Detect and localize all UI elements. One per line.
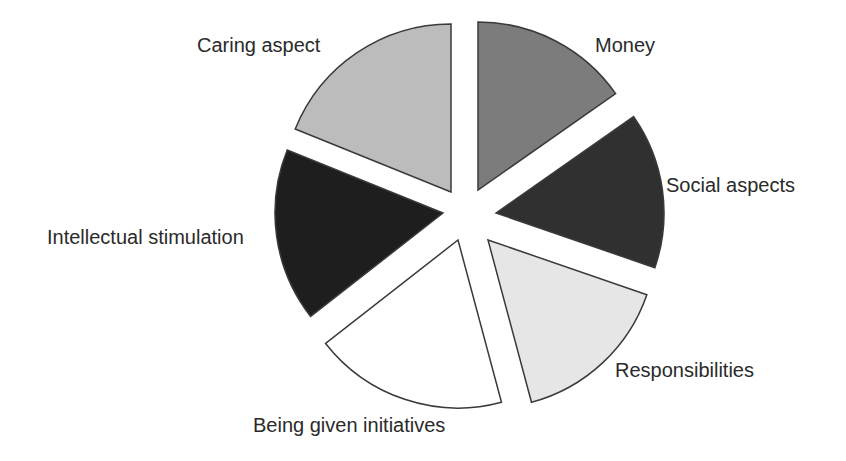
label-being-given-initiatives: Being given initiatives	[253, 415, 445, 435]
label-social-aspects: Social aspects	[666, 175, 795, 195]
exploded-pie-chart: Money Social aspects Responsibilities Be…	[0, 0, 846, 461]
label-money: Money	[595, 35, 655, 55]
label-caring-aspect: Caring aspect	[197, 35, 320, 55]
label-responsibilities: Responsibilities	[615, 360, 754, 380]
label-intellectual-stimulation: Intellectual stimulation	[47, 227, 244, 247]
